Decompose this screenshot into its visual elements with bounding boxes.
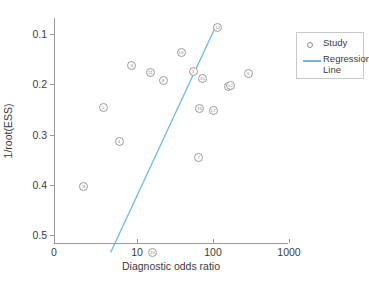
plot-area: 0.10.20.30.40.5 0101001000 1234567891011…: [54, 18, 288, 244]
data-point-marker: 15: [198, 74, 207, 83]
legend-label-regression-line: Regression Line: [323, 53, 363, 75]
x-tick-mark: [289, 239, 290, 243]
legend-marker-line: [302, 53, 322, 69]
data-point-marker: 7: [194, 153, 203, 162]
x-tick-label: 10: [131, 247, 143, 258]
legend-item-study: Study: [297, 37, 363, 53]
data-point-marker: 1: [189, 67, 198, 76]
data-point-marker: 10: [148, 248, 157, 257]
x-tick-label: 0: [51, 247, 57, 258]
y-tick-label: 0.4: [32, 180, 47, 191]
data-point-marker: 11: [146, 68, 155, 77]
y-tick-label: 0.1: [32, 29, 47, 40]
y-tick-label: 0.2: [32, 79, 47, 90]
data-point-marker: 8: [159, 76, 168, 85]
data-points-layer: 1234567891011121314151617: [54, 18, 288, 244]
scatter-plot-figure: 0.10.20.30.40.5 0101001000 1234567891011…: [0, 0, 369, 282]
x-tick-label: 100: [204, 247, 222, 258]
x-tick-label: 1000: [277, 247, 300, 258]
data-point-marker: 3: [127, 61, 136, 70]
x-axis-label: Diagnostic odds ratio: [122, 260, 220, 272]
legend-marker-circle: [302, 37, 322, 53]
data-point-marker: 14: [213, 23, 222, 32]
data-point-marker: 6: [244, 69, 253, 78]
data-point-marker: 13: [177, 48, 186, 57]
data-point-marker: 9: [79, 182, 88, 191]
data-point-marker: 12: [226, 81, 235, 90]
data-point-marker: 16: [195, 104, 204, 113]
y-tick-label: 0.3: [32, 129, 47, 140]
legend-label-study: Study: [323, 37, 347, 48]
y-axis-label: 1/root(ESS): [2, 104, 14, 159]
chart-legend: Study Regression Line: [296, 32, 364, 79]
data-point-marker: 17: [209, 106, 218, 115]
data-point-marker: 2: [99, 103, 108, 112]
data-point-marker: 4: [115, 137, 124, 146]
legend-item-regression-line: Regression Line: [297, 53, 363, 77]
y-tick-label: 0.5: [32, 230, 47, 241]
